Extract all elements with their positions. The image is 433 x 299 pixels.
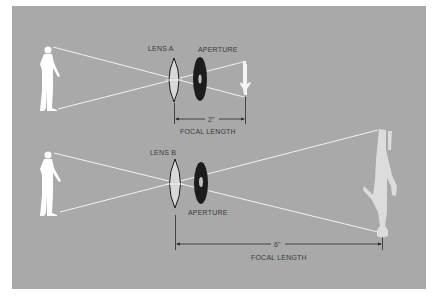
focal-length-a-label: FOCAL LENGTH xyxy=(180,128,236,135)
focal-distance-a: 2" xyxy=(208,116,215,123)
aperture-a-icon xyxy=(193,57,207,101)
focal-length-b-label: FOCAL LENGTH xyxy=(251,254,307,261)
aperture-b-label: APERTURE xyxy=(188,209,228,216)
aperture-b-icon xyxy=(194,162,208,204)
focal-distance-b: 6" xyxy=(274,241,281,248)
aperture-a-label: APERTURE xyxy=(198,46,238,53)
focal-length-diagram: LENS A APERTURE 2" FOCAL LENGTH xyxy=(0,0,433,299)
lens-b-label: LENS B xyxy=(150,149,176,156)
lens-a-label: LENS A xyxy=(148,45,174,52)
